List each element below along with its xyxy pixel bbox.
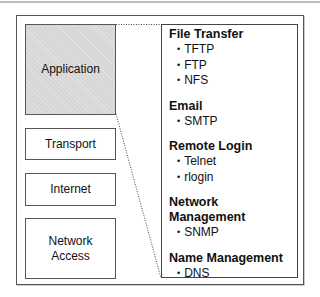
group-remote-login: Remote Login Telnet rlogin bbox=[169, 139, 297, 185]
protocol-item: SNMP bbox=[169, 225, 297, 241]
protocol-item: SMTP bbox=[169, 114, 297, 130]
group-title: Network Management bbox=[169, 195, 297, 225]
protocol-item: TFTP bbox=[169, 42, 297, 58]
protocol-item: Telnet bbox=[169, 154, 297, 170]
group-title: Remote Login bbox=[169, 139, 297, 154]
group-file-transfer: File Transfer TFTP FTP NFS bbox=[169, 27, 297, 89]
protocol-item: FTP bbox=[169, 58, 297, 74]
group-title: Name Management bbox=[169, 251, 297, 266]
group-title: File Transfer bbox=[169, 27, 297, 42]
group-title: Email bbox=[169, 99, 297, 114]
group-network-management: Network Management SNMP bbox=[169, 195, 297, 241]
protocol-item: NFS bbox=[169, 73, 297, 89]
group-name-management: Name Management DNS bbox=[169, 251, 297, 282]
group-email: Email SMTP bbox=[169, 99, 297, 130]
protocol-item: rlogin bbox=[169, 170, 297, 186]
application-protocols-panel: File Transfer TFTP FTP NFS Email SMTP Re… bbox=[161, 24, 298, 278]
protocol-item: DNS bbox=[169, 266, 297, 282]
